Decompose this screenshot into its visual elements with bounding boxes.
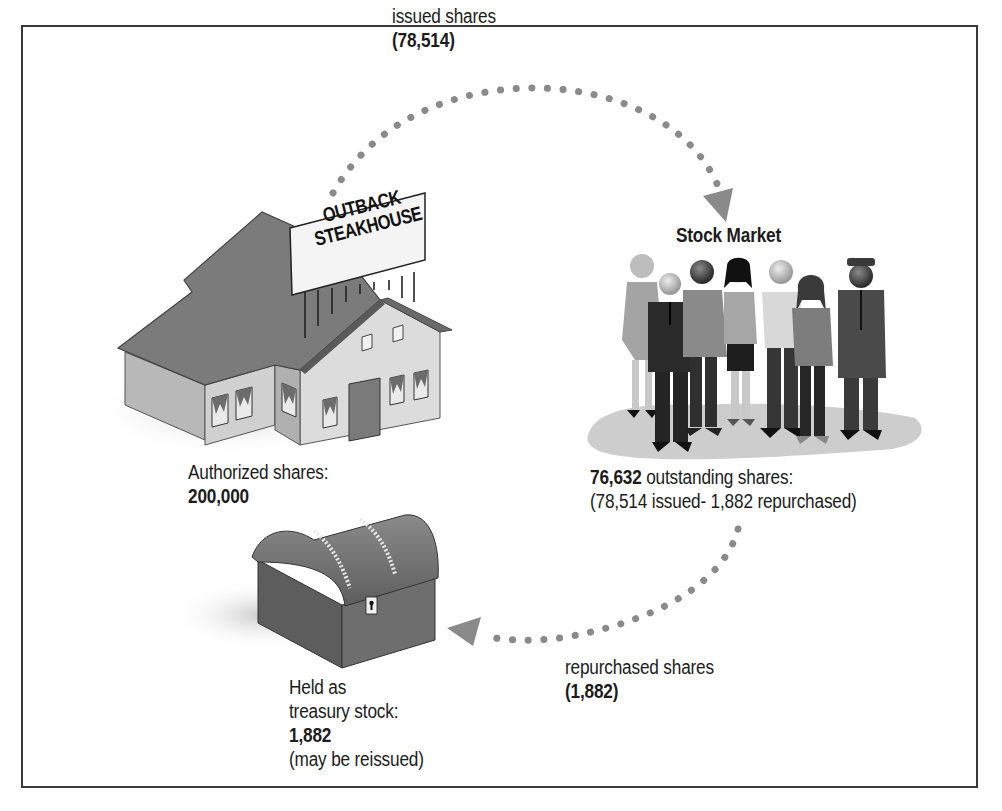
outstanding-detail: (78,514 issued- 1,882 repurchased) [590, 489, 857, 513]
authorized-value: 200,000 [188, 484, 328, 508]
repurchased-shares-label: repurchased shares (1,882) [565, 655, 714, 703]
outstanding-shares-label: 76,632 outstanding shares: (78,514 issue… [590, 465, 857, 513]
people-crowd-icon [587, 254, 921, 459]
treasury-line-1: Held as [289, 675, 424, 699]
stock-market-title: Stock Market [676, 223, 781, 247]
authorized-label-text: Authorized shares: [188, 460, 328, 484]
treasury-value: 1,882 [289, 723, 424, 747]
outstanding-label-text: outstanding shares: [646, 466, 793, 488]
restaurant-building-icon [90, 193, 452, 455]
treasury-note: (may be reissued) [289, 747, 424, 771]
treasury-line-2: treasury stock: [289, 699, 424, 723]
diagram-artwork [0, 0, 1002, 811]
repurchased-label-text: repurchased shares [565, 655, 714, 679]
arrow-head-icon [447, 617, 481, 646]
treasure-chest-icon [170, 515, 438, 668]
treasury-stock-label: Held as treasury stock: 1,882 (may be re… [289, 675, 424, 771]
arrow-head-icon [703, 188, 733, 222]
authorized-shares-label: Authorized shares: 200,000 [188, 460, 328, 508]
issued-value: (78,514) [392, 28, 496, 52]
repurchased-arrow [447, 529, 738, 646]
issued-shares-label: issued shares (78,514) [392, 4, 496, 52]
repurchased-value: (1,882) [565, 679, 714, 703]
issued-label-text: issued shares [392, 4, 496, 28]
outstanding-value: 76,632 [590, 466, 642, 488]
